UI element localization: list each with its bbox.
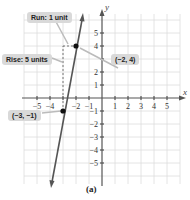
svg-text:5: 5 [94, 29, 98, 38]
figure-caption: (a) [86, 184, 97, 194]
graph-line [50, 13, 85, 188]
coordinate-plane: −5 −4 −2 −1 1 2 3 4 5 5 4 2 1 −1 −2 −3 −… [0, 0, 190, 200]
svg-text:−5: −5 [89, 159, 98, 168]
svg-text:4: 4 [94, 42, 98, 51]
line-arrow-top-icon [80, 13, 85, 22]
svg-text:3: 3 [139, 102, 143, 111]
svg-text:−2: −2 [72, 102, 81, 111]
svg-text:−1: −1 [89, 107, 98, 116]
svg-text:−2: −2 [89, 120, 98, 129]
y-axis-arrow-icon [100, 9, 105, 16]
axes [22, 9, 186, 186]
svg-text:−3: −3 [89, 133, 98, 142]
rise-callout: Rise: 5 units [2, 54, 52, 65]
run-callout: Run: 1 unit [27, 12, 72, 23]
point-lower [60, 108, 65, 113]
point-upper [73, 43, 78, 48]
y-axis-label: y [104, 2, 109, 12]
point-upper-label: (−2, 4) [111, 54, 139, 65]
svg-text:−4: −4 [46, 102, 55, 111]
x-axis-label: x [182, 87, 187, 97]
svg-text:2: 2 [126, 102, 130, 111]
svg-text:5: 5 [165, 102, 169, 111]
svg-text:2: 2 [94, 68, 98, 77]
svg-text:1: 1 [94, 81, 98, 90]
svg-text:1: 1 [113, 102, 117, 111]
line-arrow-bottom-icon [50, 180, 55, 188]
point-lower-label: (−3, −1) [8, 110, 41, 121]
svg-text:4: 4 [152, 102, 156, 111]
x-tick-labels: −5 −4 −2 −1 1 2 3 4 5 [33, 102, 169, 111]
svg-text:−4: −4 [89, 146, 98, 155]
